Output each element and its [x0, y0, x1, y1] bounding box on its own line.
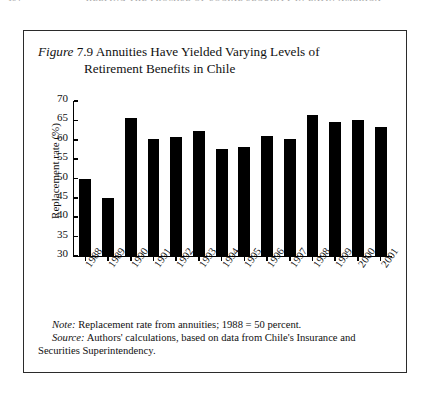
- y-axis-tick-label: 40: [57, 209, 68, 220]
- bar: [284, 139, 296, 256]
- y-axis-tick-label: 35: [57, 229, 68, 240]
- bar: [148, 139, 160, 256]
- note-text: Replacement rate from annuities; 1988 = …: [78, 319, 301, 330]
- figure-box: Figure 7.9 Annuities Have Yielded Varyin…: [23, 30, 407, 373]
- figure-caption: Figure 7.9 Annuities Have Yielded Varyin…: [38, 43, 390, 77]
- bar: [79, 179, 91, 257]
- y-axis-tick-label: 50: [57, 171, 68, 182]
- page-folio: 154: [8, 0, 21, 3]
- y-axis-tick-label: 45: [57, 190, 68, 201]
- bar: [125, 118, 137, 256]
- figure-notes: Note: Replacement rate from annuities; 1…: [38, 318, 394, 358]
- y-axis-tick-label: 30: [57, 248, 68, 259]
- y-axis-tick-label: 65: [57, 112, 68, 123]
- bar: [102, 198, 114, 256]
- note-label: Note:: [52, 319, 76, 330]
- running-head: 154 KEEPING THE PROMISE OF SOCIAL SECURI…: [0, 0, 429, 3]
- source-line: Source: Authors' calculations, based on …: [38, 331, 394, 357]
- figure-label: Figure: [38, 44, 73, 59]
- source-label: Source:: [52, 332, 85, 343]
- bar: [170, 137, 182, 256]
- plot-area: 303540455055606570 198819891990199119921…: [73, 101, 392, 257]
- figure-number: 7.9: [77, 44, 93, 59]
- y-axis-tick-label: 55: [57, 151, 68, 162]
- bar-series: [74, 101, 392, 256]
- bar: [329, 122, 341, 256]
- bar-chart: Replacement rate (%) 303540455055606570 …: [24, 93, 408, 308]
- bar: [238, 147, 250, 256]
- bar: [375, 127, 387, 256]
- source-text: Authors' calculations, based on data fro…: [38, 332, 356, 356]
- y-axis-tick-label: 60: [57, 132, 68, 143]
- figure-caption-line2: Retirement Benefits in Chile: [38, 60, 390, 77]
- note-line: Note: Replacement rate from annuities; 1…: [38, 318, 394, 331]
- bar: [193, 131, 205, 256]
- y-axis-tick-label: 70: [57, 93, 68, 104]
- bar: [352, 120, 364, 256]
- bar: [216, 149, 228, 256]
- running-head-title: KEEPING THE PROMISE OF SOCIAL SECURITY I…: [86, 0, 381, 3]
- bar: [261, 136, 273, 256]
- figure-caption-line1: Annuities Have Yielded Varying Levels of: [96, 44, 320, 59]
- x-axis: 1988198919901991199219931994199519961997…: [74, 256, 392, 261]
- bar: [307, 115, 319, 256]
